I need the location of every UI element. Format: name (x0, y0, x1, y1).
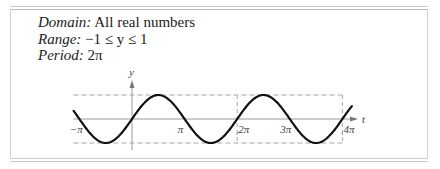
y-axis-arrow-icon (130, 80, 135, 88)
tick-label: 4π (343, 123, 355, 135)
t-axis-arrow-icon (350, 117, 358, 122)
tick-label: π (178, 123, 184, 135)
tick-labels: ty−ππ2π3π4π (70, 66, 366, 135)
tick-label: 2π (238, 123, 250, 135)
sine-graph: ty−ππ2π3π4π (0, 0, 440, 169)
tick-label: 3π (279, 123, 292, 135)
t-axis-label: t (362, 113, 366, 125)
y-axis-label: y (128, 66, 134, 78)
tick-label: −π (70, 123, 83, 135)
